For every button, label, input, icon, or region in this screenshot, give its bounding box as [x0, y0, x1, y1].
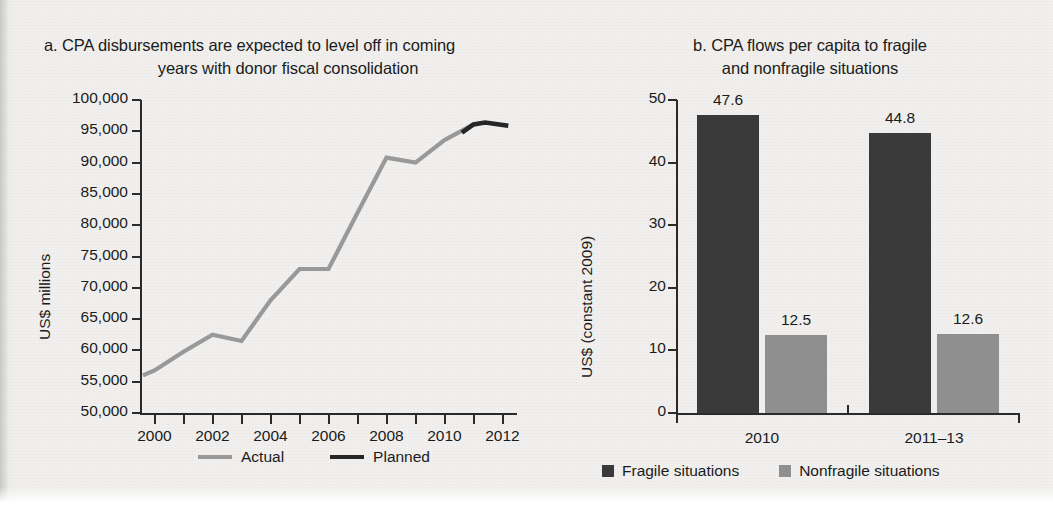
panel-b-title: b. CPA flows per capita to fragile and n…	[600, 34, 1020, 80]
panel-b-y-tick	[668, 224, 677, 226]
panel-a-y-tick	[132, 381, 141, 383]
legend-line-planned	[330, 455, 364, 459]
panel-a-x-tick-2007	[357, 415, 359, 424]
panel-b-x-axis-cap-1	[1018, 413, 1020, 423]
panel-a-x-tick-2003	[241, 415, 243, 424]
panel-b-y-tick-label-5: 0	[614, 402, 666, 420]
panel-a-x-tick-2011	[473, 415, 475, 424]
legend-item-fragile[interactable]: Fragile situations	[602, 462, 739, 480]
panel-b-y-tick	[668, 162, 677, 164]
legend-label-fragile: Fragile situations	[622, 462, 739, 480]
panel-a-series-planned	[462, 123, 508, 133]
panel-a-x-tick-2002	[212, 415, 214, 424]
panel-a-title-line2: years with donor fiscal consolidation	[44, 57, 514, 80]
panel-a-y-tick-label-10: 50,000	[32, 402, 128, 420]
panel-a-y-tick-label-5: 75,000	[32, 246, 128, 264]
legend-swatch-nonfragile	[779, 465, 791, 477]
panel-b-x-category-label-1: 2011–13	[854, 429, 1014, 447]
panel-a-x-tick-2010	[444, 415, 446, 424]
panel-b-bar-chart: b. CPA flows per capita to fragile and n…	[560, 0, 1053, 509]
panel-a-legend: Actual Planned	[198, 448, 430, 466]
panel-b-title-text1: CPA flows per capita to fragile	[711, 36, 927, 54]
panel-a-y-tick	[132, 318, 141, 320]
panel-a-x-tick-2001	[183, 415, 185, 424]
bar-2010-fragile[interactable]	[697, 115, 759, 413]
panel-b-y-axis-line	[676, 100, 678, 415]
panel-a-y-tick	[132, 349, 141, 351]
panel-a-series-actual	[143, 124, 474, 375]
panel-a-letter: a.	[44, 36, 58, 54]
panel-b-y-tick-label-4: 10	[614, 339, 666, 357]
panel-b-y-tick	[668, 287, 677, 289]
panel-a-y-tick-label-9: 55,000	[32, 371, 128, 389]
panel-a-y-tick-label-7: 65,000	[32, 308, 128, 326]
panel-a-x-tick-2008	[386, 415, 388, 424]
panel-b-y-tick	[668, 349, 677, 351]
bar-value-label-201113-nonfragile: 12.6	[921, 310, 1015, 328]
panel-a-y-tick	[132, 224, 141, 226]
panel-a-y-tick	[132, 193, 141, 195]
panel-a-title-line1: CPA disbursements are expected to level …	[62, 36, 455, 54]
panel-b-y-tick-label-1: 40	[614, 152, 666, 170]
panel-b-title-line1: b. CPA flows per capita to fragile	[600, 34, 1020, 57]
bar-2010-nonfragile[interactable]	[765, 335, 827, 413]
panel-b-x-category-label-0: 2010	[682, 429, 842, 447]
panel-a-y-tick	[132, 256, 141, 258]
legend-item-actual[interactable]: Actual	[198, 448, 284, 466]
panel-a-x-tick-label-2012: 2012	[469, 427, 537, 445]
panel-a-y-tick-label-2: 90,000	[32, 152, 128, 170]
bar-value-label-2010-nonfragile: 12.5	[749, 311, 843, 329]
legend-label-planned: Planned	[373, 448, 430, 466]
panel-b-y-tick-label-2: 30	[614, 214, 666, 232]
legend-item-planned[interactable]: Planned	[330, 448, 430, 466]
panel-a-y-tick	[132, 130, 141, 132]
legend-line-actual	[198, 455, 232, 459]
panel-b-y-tick-label-0: 50	[614, 89, 666, 107]
panel-a-y-tick-label-8: 60,000	[32, 339, 128, 357]
panel-b-x-axis-cap-0	[676, 413, 678, 423]
legend-label-nonfragile: Nonfragile situations	[799, 462, 939, 480]
panel-a-y-axis-title: US$ millions	[36, 254, 54, 340]
panel-a-y-tick	[132, 162, 141, 164]
panel-b-legend: Fragile situations Nonfragile situations	[602, 462, 940, 480]
legend-swatch-fragile	[602, 465, 614, 477]
legend-item-nonfragile[interactable]: Nonfragile situations	[779, 462, 939, 480]
panel-a-x-tick-2012	[502, 415, 504, 424]
panel-a-y-tick	[132, 287, 141, 289]
panel-a-y-tick-label-0: 100,000	[32, 89, 128, 107]
figure-frame: a. CPA disbursements are expected to lev…	[0, 0, 1053, 509]
panel-a-x-tick-2005	[299, 415, 301, 424]
panel-a-x-tick-2006	[328, 415, 330, 424]
panel-a-x-tick-2004	[270, 415, 272, 424]
panel-a-title: a. CPA disbursements are expected to lev…	[44, 34, 514, 80]
panel-b-y-tick	[668, 99, 677, 101]
panel-b-y-axis-title: US$ (constant 2009)	[578, 236, 596, 378]
panel-a-y-tick-label-1: 95,000	[32, 120, 128, 138]
panel-a-y-tick	[132, 412, 141, 414]
panel-a-y-tick-label-3: 85,000	[32, 183, 128, 201]
panel-a-y-tick-label-6: 70,000	[32, 277, 128, 295]
legend-label-actual: Actual	[241, 448, 284, 466]
panel-b-letter: b.	[693, 36, 707, 54]
panel-a-line-chart: a. CPA disbursements are expected to lev…	[0, 0, 560, 509]
bar-value-label-2010-fragile: 47.6	[681, 91, 775, 109]
bar-201113-fragile[interactable]	[869, 133, 931, 413]
panel-b-y-tick-label-3: 20	[614, 277, 666, 295]
panel-a-y-tick-label-4: 80,000	[32, 214, 128, 232]
panel-a-y-axis-line	[140, 100, 142, 415]
panel-a-x-tick-2000	[154, 415, 156, 424]
panel-a-y-tick	[132, 99, 141, 101]
bar-value-label-201113-fragile: 44.8	[853, 109, 947, 127]
bar-201113-nonfragile[interactable]	[937, 334, 999, 413]
panel-b-x-group-tick	[847, 405, 849, 415]
panel-a-x-tick-2009	[415, 415, 417, 424]
panel-b-title-line2: and nonfragile situations	[600, 57, 1020, 80]
